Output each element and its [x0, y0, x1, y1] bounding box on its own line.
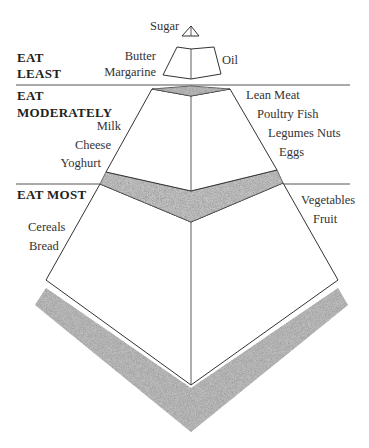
heading-eat-least-line2: LEAST [17, 67, 61, 80]
heading-eat-least-line1: EAT [17, 51, 44, 64]
label-legumes-nuts: Legumes Nuts [268, 127, 341, 140]
pyramid-tier-least [163, 47, 221, 79]
label-lean-meat: Lean Meat [246, 89, 300, 102]
heading-eat-most: EAT MOST [17, 188, 86, 201]
label-vegetables: Vegetables [301, 194, 355, 207]
heading-eat-moderately-line2: MODERATELY [17, 106, 112, 119]
label-margarine: Margarine [104, 66, 156, 79]
label-butter: Butter [125, 50, 156, 63]
pyramid-tier-most [46, 170, 338, 385]
label-poultry-fish: Poultry Fish [257, 108, 318, 121]
label-eggs: Eggs [279, 146, 304, 159]
label-sugar: Sugar [150, 20, 179, 33]
label-cheese: Cheese [75, 139, 111, 152]
heading-eat-moderately-line1: EAT [17, 89, 44, 102]
label-cereals: Cereals [28, 221, 65, 234]
label-yoghurt: Yoghurt [61, 157, 101, 170]
label-fruit: Fruit [313, 213, 337, 226]
label-milk: Milk [97, 120, 121, 133]
label-oil: Oil [222, 54, 238, 67]
pyramid-apex-sugar [182, 26, 199, 36]
label-bread: Bread [29, 240, 59, 253]
